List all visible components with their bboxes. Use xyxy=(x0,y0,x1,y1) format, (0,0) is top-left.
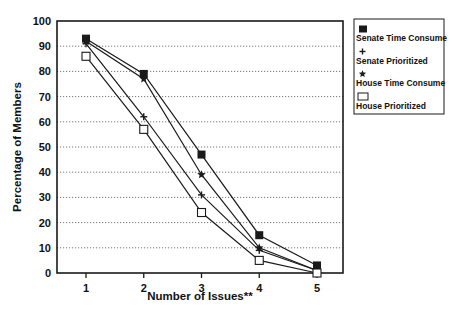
y-tick-label: 0 xyxy=(45,267,51,279)
gridlines xyxy=(57,46,343,248)
open-square-marker-icon xyxy=(255,256,263,264)
open-square-marker-icon xyxy=(140,125,148,133)
x-tick-label: 2 xyxy=(141,282,147,294)
y-tick-label: 40 xyxy=(39,166,51,178)
series-markers xyxy=(82,35,322,277)
x-tick-label: 4 xyxy=(256,282,263,294)
legend-label: House Time Consume xyxy=(356,78,445,88)
legend-label: Senate Prioritized xyxy=(356,56,428,66)
line-chart: 0102030405060708090100 12345 Number of I… xyxy=(0,0,469,331)
y-tick-label: 90 xyxy=(39,40,51,52)
y-tick-label: 30 xyxy=(39,191,51,203)
x-axis-title: Number of Issues** xyxy=(147,290,253,302)
open-square-marker-icon xyxy=(313,269,321,277)
series-line xyxy=(86,56,317,273)
filled-square-marker-icon xyxy=(255,231,263,239)
legend-label: Senate Time Consume xyxy=(356,33,447,43)
y-tick-label: 20 xyxy=(39,217,51,229)
y-axis-title: Percentage of Members xyxy=(11,82,23,212)
y-tick-label: 70 xyxy=(39,91,51,103)
open-square-marker-icon xyxy=(198,209,206,217)
legend-label: House Prioritized xyxy=(356,101,426,111)
y-tick-label: 100 xyxy=(33,15,51,27)
x-tick-label: 1 xyxy=(83,282,89,294)
y-tick-label: 80 xyxy=(39,65,51,77)
open-square-marker-icon xyxy=(82,52,90,60)
legend: Senate Time ConsumeSenate PrioritizedHou… xyxy=(354,19,447,114)
x-tick-label: 5 xyxy=(314,282,320,294)
y-tick-label: 60 xyxy=(39,116,51,128)
filled-square-marker-icon xyxy=(359,26,367,33)
filled-square-marker-icon xyxy=(198,151,206,159)
y-tick-label: 50 xyxy=(39,141,51,153)
star-marker-icon xyxy=(197,170,206,178)
y-axis-ticks: 0102030405060708090100 xyxy=(33,15,51,279)
open-square-marker-icon xyxy=(358,93,368,100)
y-tick-label: 10 xyxy=(39,242,51,254)
